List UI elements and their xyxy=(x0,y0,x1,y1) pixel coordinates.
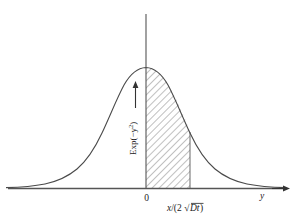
formula-text: x/(2√Dt) xyxy=(166,203,203,214)
formula-open: /(2 xyxy=(171,203,182,214)
y-axis-label-closing: ) xyxy=(128,122,138,125)
y-axis-arrow-icon xyxy=(133,81,139,108)
gaussian-plot-figure: Exp(−y2) 0 x/(2√Dt) y xyxy=(0,0,300,219)
x-axis-tick-label: x/(2√Dt) xyxy=(166,203,204,214)
plot-canvas: Exp(−y2) 0 x/(2√Dt) y xyxy=(0,0,300,219)
x-axis-variable-label: y xyxy=(259,191,265,201)
origin-label: 0 xyxy=(144,193,149,203)
y-axis-label-base: Exp(−y xyxy=(128,127,138,155)
x-axis-arrow-icon xyxy=(272,186,290,192)
y-axis-label: Exp(−y2) xyxy=(127,122,138,155)
formula-close: ) xyxy=(200,203,203,214)
formula-radicand: Dt xyxy=(189,203,200,213)
